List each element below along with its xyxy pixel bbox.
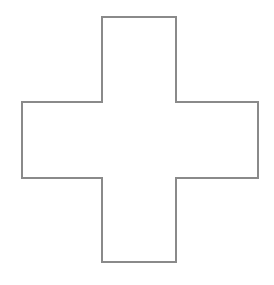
cross-diagram [0, 0, 274, 285]
diagram-canvas [0, 0, 274, 285]
cross-shape [22, 17, 258, 262]
